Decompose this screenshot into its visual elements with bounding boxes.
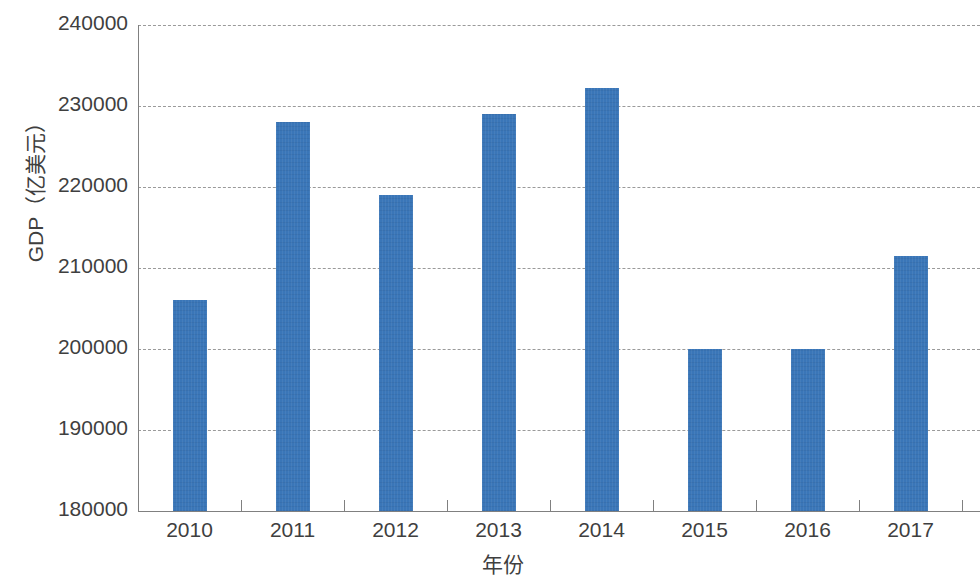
x-axis-title: 年份 [138,548,868,578]
bar-2017[interactable] [894,256,928,511]
x-axis-tick-label-2014: 2014 [550,518,653,542]
x-axis-tick-label-2015: 2015 [653,518,756,542]
x-axis-tick [653,500,654,511]
bar-chart: GDP（亿美元） 2400002300002200002100002000001… [0,0,980,578]
bar-2011[interactable] [276,122,310,511]
y-axis-tick-label: 180000 [8,497,128,521]
y-axis-tick-label: 190000 [8,416,128,440]
x-axis-tick-label-2012: 2012 [344,518,447,542]
x-axis-tick [859,500,860,511]
x-axis-tick-label-2011: 2011 [241,518,344,542]
bar-2016[interactable] [791,349,825,511]
y-axis-tick-label: 200000 [8,335,128,359]
y-axis-tick-label: 230000 [8,92,128,116]
x-axis-tick [241,500,242,511]
bar-2013[interactable] [482,114,516,511]
x-axis-tick [756,500,757,511]
x-axis-tick [550,500,551,511]
y-axis-tick-labels: 2400002300002200002100002000001900001800… [0,0,128,578]
bar-2015[interactable] [688,349,722,511]
x-axis-tick-label-2016: 2016 [756,518,859,542]
bar-2014[interactable] [585,88,619,511]
x-axis-tick [447,500,448,511]
y-axis-tick-label: 210000 [8,254,128,278]
x-axis-tick-labels: 20102011201220132014201520162017 [138,518,980,552]
x-axis-tick-label-2013: 2013 [447,518,550,542]
y-axis-tick-label: 220000 [8,173,128,197]
y-axis-tick-label: 240000 [8,11,128,35]
bar-2012[interactable] [379,195,413,511]
x-axis-tick-label-2017: 2017 [859,518,962,542]
x-axis-tick [962,500,963,511]
x-axis-tick [138,500,139,511]
x-axis-tick-label-2010: 2010 [138,518,241,542]
bars-layer [138,25,980,511]
bar-2010[interactable] [173,300,207,511]
x-axis-tick [344,500,345,511]
